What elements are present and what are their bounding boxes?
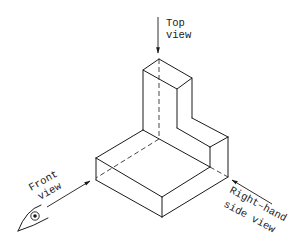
step-block — [177, 118, 228, 177]
front-view-indicator: Front view — [18, 168, 90, 231]
side-view-indicator: Right–hand side view — [222, 180, 289, 236]
upright-block — [143, 59, 192, 130]
isometric-diagram: Top view Front view Right–hand side view — [0, 0, 306, 246]
hidden-edges — [96, 59, 228, 178]
base-slab — [96, 130, 228, 217]
top-view-label-line1: Top — [166, 17, 185, 29]
eye-icon — [18, 205, 48, 231]
top-view-label-line2: view — [166, 29, 192, 41]
top-view-indicator: Top view — [158, 17, 192, 53]
